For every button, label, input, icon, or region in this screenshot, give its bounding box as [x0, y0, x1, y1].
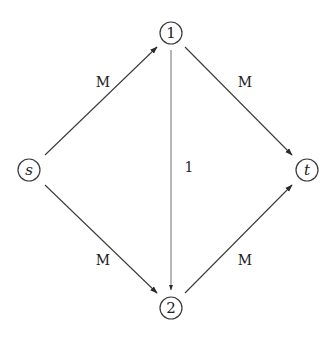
flow-network-diagram: M M 1 M M s 1 2 t — [0, 0, 336, 337]
node-2-label: 2 — [166, 299, 176, 317]
edge-s-to-1 — [45, 47, 157, 155]
edge-label-1-t: M — [238, 74, 252, 90]
node-1-label: 1 — [166, 24, 176, 42]
node-2: 2 — [160, 297, 182, 319]
node-t: t — [296, 159, 318, 181]
node-s: s — [18, 159, 40, 181]
node-1: 1 — [160, 22, 182, 44]
diagram-svg: M M 1 M M s 1 2 t — [0, 0, 336, 337]
edge-label-2-t: M — [238, 252, 252, 268]
edge-2-to-t — [185, 185, 292, 293]
edge-label-s-1: M — [96, 74, 110, 90]
node-s-label: s — [25, 161, 33, 179]
node-t-label: t — [304, 161, 311, 179]
edge-label-1-2: 1 — [185, 159, 194, 175]
edge-s-to-2 — [45, 185, 157, 293]
edge-1-to-t — [185, 47, 292, 155]
edge-label-s-2: M — [96, 252, 110, 268]
